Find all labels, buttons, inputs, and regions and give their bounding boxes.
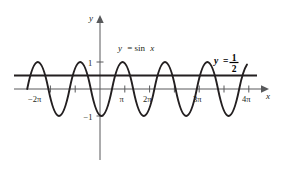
line-label-numerator: 1 <box>232 53 237 63</box>
curve-label-lhs: y <box>117 43 122 53</box>
line-label-lhs-eq: y = <box>213 56 229 66</box>
x-axis-label: x <box>265 91 270 101</box>
y-tick-label--1: −1 <box>84 112 93 122</box>
y-axis-label: y <box>88 13 93 23</box>
line-label-denominator: 2 <box>232 64 237 74</box>
x-tick-label--2pi: −2π <box>28 94 42 104</box>
y-axis-arrowhead <box>96 15 103 23</box>
x-tick-label-4pi: 4π <box>242 94 251 104</box>
y-axis-group <box>96 15 103 160</box>
x-tick-label-pi: π <box>120 94 125 104</box>
x-tick-label-3pi: 3π <box>193 94 202 104</box>
x-axis-group <box>14 85 269 92</box>
y-tick-label-1: 1 <box>88 58 92 68</box>
graph-canvas: −2π π 2π 3π 4π 1 −1 x y y = sin x y = 1 … <box>0 0 284 172</box>
curve-label-group: y = sin x <box>117 43 154 53</box>
x-tick-label-2pi: 2π <box>143 94 152 104</box>
curve-label-eq: = sin <box>127 43 145 53</box>
line-label-group: y = 1 2 <box>213 53 239 74</box>
line-label-eq: = <box>223 56 228 66</box>
curve-label: y = sin x <box>117 43 154 53</box>
line-label-lhs: y <box>213 56 219 66</box>
sine-graph-figure: −2π π 2π 3π 4π 1 −1 x y y = sin x y = 1 … <box>0 0 284 172</box>
curve-label-var: x <box>149 43 154 53</box>
